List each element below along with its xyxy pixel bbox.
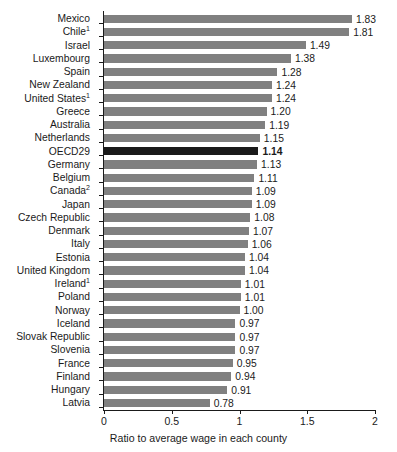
bar-row: Czech Republic1.08	[0, 212, 397, 225]
category-label-mexico: Mexico	[0, 13, 90, 24]
category-label-australia: Australia	[0, 119, 90, 130]
bar-value-label: 0.91	[231, 385, 251, 396]
category-label-united-states: United States1	[0, 93, 90, 104]
bar-italy	[104, 240, 248, 248]
bar-value-label: 1.01	[245, 279, 265, 290]
category-label-united-kingdom: United Kingdom	[0, 265, 90, 276]
bar-value-label: 1.04	[249, 252, 269, 263]
category-label-oecd29: OECD29	[0, 146, 90, 157]
bar-value-label: 1.07	[253, 226, 273, 237]
bar-latvia	[104, 399, 210, 407]
x-tick-mark	[375, 410, 376, 414]
category-label-luxembourg: Luxembourg	[0, 53, 90, 64]
bar-estonia	[104, 253, 245, 261]
bar-france	[104, 359, 233, 367]
x-tick-label: 0.5	[164, 415, 179, 427]
x-tick-label: 2	[372, 415, 378, 427]
category-label-italy: Italy	[0, 238, 90, 249]
bar-row: Hungary0.91	[0, 384, 397, 397]
category-footnote-marker: 1	[86, 91, 90, 98]
category-label-greece: Greece	[0, 106, 90, 117]
bar-value-label: 1.24	[276, 80, 296, 91]
bar-row: France0.95	[0, 358, 397, 371]
category-label-estonia: Estonia	[0, 252, 90, 263]
bar-value-label: 1.01	[245, 292, 265, 303]
x-tick-label: 1.5	[300, 415, 315, 427]
x-axis-title: Ratio to average wage in each county	[0, 432, 397, 445]
bar-row: Germany1.13	[0, 159, 397, 172]
bar-row: Mexico1.83	[0, 13, 397, 26]
x-tick-mark	[172, 410, 173, 414]
bar-row: United States11.24	[0, 93, 397, 106]
bar-spain	[104, 68, 277, 76]
x-tick-label: 0	[101, 415, 107, 427]
bar-row: Iceland0.97	[0, 318, 397, 331]
bar-value-label: 0.95	[237, 358, 257, 369]
bar-row: Israel1.49	[0, 40, 397, 53]
bar-oecd29	[104, 147, 258, 155]
category-label-france: France	[0, 358, 90, 369]
x-tick-mark	[104, 410, 105, 414]
bar-japan	[104, 200, 252, 208]
bar-value-label: 0.78	[214, 398, 234, 409]
bar-row: Estonia1.04	[0, 252, 397, 265]
bar-row: Denmark1.07	[0, 225, 397, 238]
bar-value-label: 0.97	[239, 318, 259, 329]
bar-row: United Kingdom1.04	[0, 265, 397, 278]
x-tick-label: 1	[237, 415, 243, 427]
bar-israel	[104, 41, 306, 49]
bar-germany	[104, 160, 257, 168]
bar-row: Norway1.00	[0, 305, 397, 318]
bar-row: Spain1.28	[0, 66, 397, 79]
bar-united-kingdom	[104, 266, 245, 274]
category-label-norway: Norway	[0, 305, 90, 316]
category-label-spain: Spain	[0, 66, 90, 77]
bar-row: Slovak Republic0.97	[0, 331, 397, 344]
bar-value-label: 1.08	[254, 212, 274, 223]
bar-row: Canada21.09	[0, 185, 397, 198]
category-label-belgium: Belgium	[0, 172, 90, 183]
bar-canada	[104, 187, 252, 195]
bar-chile	[104, 28, 349, 36]
bar-row: Greece1.20	[0, 106, 397, 119]
bar-value-label: 1.06	[252, 239, 272, 250]
bar-ireland	[104, 280, 241, 288]
x-tick-mark	[240, 410, 241, 414]
bar-luxembourg	[104, 54, 291, 62]
bar-row: Finland0.94	[0, 371, 397, 384]
bar-poland	[104, 293, 241, 301]
category-label-hungary: Hungary	[0, 384, 90, 395]
bar-denmark	[104, 227, 249, 235]
category-label-israel: Israel	[0, 40, 90, 51]
bar-value-label: 1.28	[281, 67, 301, 78]
bar-value-label: 1.19	[269, 120, 289, 131]
bar-row: Netherlands1.15	[0, 132, 397, 145]
bar-row: Luxembourg1.38	[0, 53, 397, 66]
category-label-germany: Germany	[0, 159, 90, 170]
category-label-canada: Canada2	[0, 185, 90, 196]
bar-value-label: 1.11	[258, 173, 277, 184]
category-footnote-marker: 2	[86, 184, 90, 191]
bar-row: Latvia0.78	[0, 397, 397, 410]
bar-belgium	[104, 174, 254, 182]
bar-hungary	[104, 386, 227, 394]
bar-slovenia	[104, 346, 235, 354]
bar-value-label: 1.09	[256, 199, 276, 210]
bar-mexico	[104, 15, 352, 23]
category-label-czech-republic: Czech Republic	[0, 212, 90, 223]
bar-value-label: 1.49	[310, 40, 330, 51]
bar-row: Australia1.19	[0, 119, 397, 132]
bar-chart: Mexico1.83Chile11.81Israel1.49Luxembourg…	[0, 0, 397, 452]
bar-row: Ireland11.01	[0, 278, 397, 291]
bar-iceland	[104, 319, 235, 327]
category-label-slovak-republic: Slovak Republic	[0, 331, 90, 342]
x-axis-ticks: 00.511.52	[0, 410, 397, 430]
bar-value-label: 1.20	[271, 106, 291, 117]
bar-row: Japan1.09	[0, 199, 397, 212]
bar-value-label: 1.83	[356, 14, 376, 25]
bar-czech-republic	[104, 213, 250, 221]
bar-value-label: 1.04	[249, 265, 269, 276]
plot-area: Mexico1.83Chile11.81Israel1.49Luxembourg…	[0, 0, 397, 410]
bar-value-label: 0.97	[239, 332, 259, 343]
bar-value-label: 1.81	[353, 27, 373, 38]
